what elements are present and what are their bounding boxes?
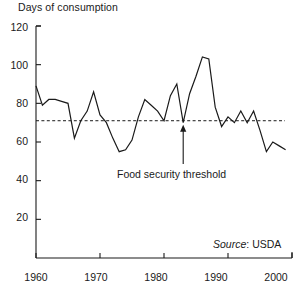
chart-figure: Days of consumption 120 100 80 60 40 20 … [0,0,306,292]
chart-plot-area [0,0,306,292]
threshold-arrow [180,125,186,164]
y-axis-ticks [36,26,41,219]
arrow-head-icon [180,125,186,132]
x-axis-ticks [36,253,292,258]
data-series-line [36,57,286,152]
axis-lines [36,26,292,258]
